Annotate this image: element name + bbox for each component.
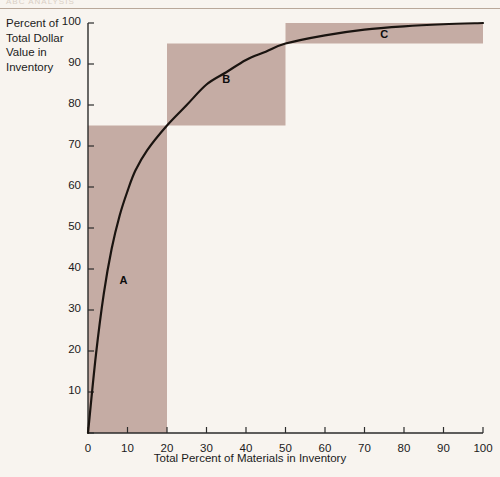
x-tick-label-80: 80	[391, 442, 417, 454]
y-tick-label-90: 90	[55, 56, 81, 68]
y-tick-label-20: 20	[55, 343, 81, 355]
zone-label-a: A	[115, 274, 133, 286]
x-tick-label-100: 100	[470, 442, 496, 454]
x-tick-label-70: 70	[352, 442, 378, 454]
x-tick-label-60: 60	[312, 442, 338, 454]
x-tick-label-40: 40	[233, 442, 259, 454]
y-tick-label-30: 30	[55, 302, 81, 314]
shaded-regions	[88, 23, 483, 433]
zone-label-b: B	[217, 73, 235, 85]
x-tick-label-10: 10	[115, 442, 141, 454]
y-tick-label-70: 70	[55, 138, 81, 150]
y-tick-label-10: 10	[55, 384, 81, 396]
x-tick-label-90: 90	[431, 442, 457, 454]
x-tick-label-20: 20	[154, 442, 180, 454]
y-tick-label-50: 50	[55, 220, 81, 232]
y-tick-label-80: 80	[55, 97, 81, 109]
x-tick-label-0: 0	[75, 442, 101, 454]
zone-label-c: C	[375, 28, 393, 40]
x-tick-label-30: 30	[194, 442, 220, 454]
abc-inventory-chart	[0, 0, 500, 477]
y-tick-label-100: 100	[55, 15, 81, 27]
x-tick-label-50: 50	[273, 442, 299, 454]
y-tick-label-60: 60	[55, 179, 81, 191]
y-tick-label-40: 40	[55, 261, 81, 273]
